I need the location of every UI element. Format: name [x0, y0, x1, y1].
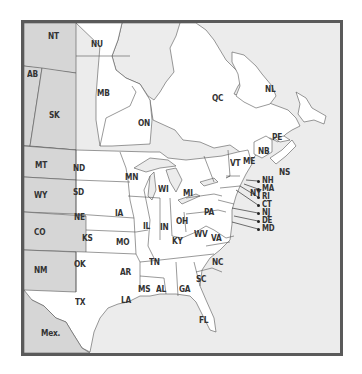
- label-ab: AB: [27, 69, 38, 79]
- label-sk: SK: [49, 110, 60, 120]
- label-mt: MT: [35, 160, 47, 170]
- pointer-dot-nj: [257, 212, 260, 215]
- label-mi: MI: [183, 188, 193, 198]
- pointer-dot-nh: [257, 180, 260, 183]
- label-qc: QC: [212, 93, 223, 103]
- label-nb: NB: [258, 146, 269, 156]
- label-ia: IA: [115, 208, 123, 218]
- label-ns: NS: [279, 167, 290, 177]
- label-ne: NE: [74, 212, 85, 222]
- pointer-dot-ri: [257, 196, 260, 199]
- label-ga: GA: [179, 284, 190, 294]
- label-vt: VT: [230, 158, 240, 168]
- label-oh: OH: [176, 216, 188, 226]
- label-va: VA: [211, 233, 222, 243]
- label-ks: KS: [82, 233, 93, 243]
- label-nu: NU: [91, 39, 103, 49]
- label-sd: SD: [73, 187, 84, 197]
- label-co: CO: [34, 227, 45, 237]
- label-mo: MO: [116, 237, 129, 247]
- label-la: LA: [121, 295, 131, 305]
- label-tn: TN: [149, 257, 160, 267]
- label-ky: KY: [172, 236, 183, 246]
- label-nl: NL: [265, 84, 275, 94]
- region-nm[interactable]: [24, 250, 76, 292]
- label-md: MD: [262, 224, 274, 233]
- label-in: IN: [160, 222, 168, 232]
- label-nt: NT: [48, 31, 59, 41]
- label-mexico: Mex.: [41, 328, 60, 338]
- pointer-dot-de: [257, 220, 260, 223]
- pointer-dot-md: [257, 228, 260, 231]
- label-nm: NM: [34, 265, 47, 275]
- region-mt[interactable]: [24, 146, 76, 180]
- label-tx: TX: [75, 297, 85, 307]
- label-pe: PE: [272, 132, 282, 142]
- label-pa: PA: [204, 207, 214, 217]
- pointer-dot-ma: [257, 188, 260, 191]
- label-sc: SC: [196, 274, 206, 284]
- label-me: ME: [243, 156, 255, 166]
- label-mb: MB: [97, 88, 110, 98]
- label-ar: AR: [120, 267, 131, 277]
- map-frame: NT NU AB MB SK ON QC NL PE NB NS ME VT M…: [21, 20, 343, 356]
- pointer-dot-ct: [257, 204, 260, 207]
- label-nd: ND: [73, 163, 85, 173]
- label-ok: OK: [74, 259, 86, 269]
- label-wy: WY: [34, 190, 47, 200]
- label-fl: FL: [199, 315, 208, 325]
- label-nc: NC: [212, 257, 223, 267]
- label-on: ON: [138, 118, 150, 128]
- north-america-map: [24, 23, 340, 353]
- label-wi: WI: [158, 184, 168, 194]
- label-il: IL: [143, 221, 150, 231]
- region-wy[interactable]: [24, 177, 76, 214]
- label-ms: MS: [138, 284, 150, 294]
- label-mn: MN: [125, 172, 138, 182]
- label-al: AL: [156, 284, 166, 294]
- label-wv: WV: [194, 229, 207, 239]
